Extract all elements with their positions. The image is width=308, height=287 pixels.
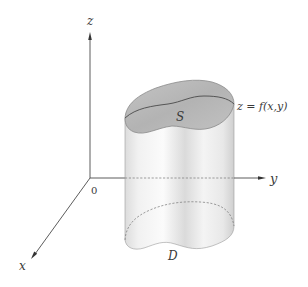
x-axis-label: x xyxy=(19,259,26,273)
surface-s-cap xyxy=(125,80,234,133)
region-d-label: D xyxy=(167,249,178,263)
surface-equation-label: z = f(x,y) xyxy=(236,100,288,113)
surface-s-label: S xyxy=(176,110,184,124)
x-axis xyxy=(31,178,90,259)
z-axis-arrow-icon xyxy=(88,32,92,40)
origin-label: 0 xyxy=(91,185,97,196)
y-axis-arrow-icon xyxy=(258,176,266,180)
z-axis-label: z xyxy=(86,14,94,28)
surface-over-region-diagram: z y x 0 S z = f(x,y) D xyxy=(0,0,308,287)
z-axis xyxy=(88,32,92,178)
y-axis-label: y xyxy=(269,171,278,186)
